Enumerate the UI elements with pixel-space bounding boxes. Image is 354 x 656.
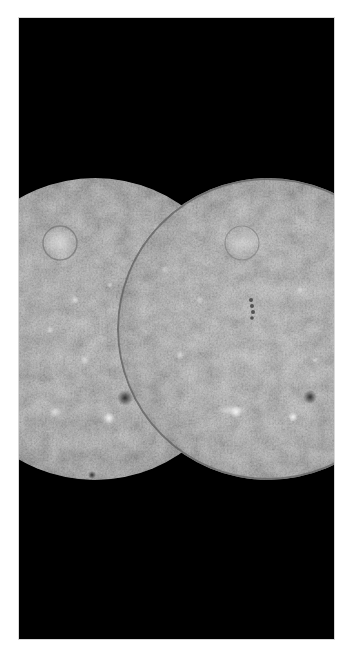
planet-scene <box>19 18 334 639</box>
right-bright-spot-1 <box>288 412 298 422</box>
right-dark-crater <box>303 390 317 404</box>
left-bright-spot <box>103 412 115 424</box>
left-dark-crater <box>117 390 133 406</box>
image-frame: Mercury <box>19 18 334 639</box>
left-bottom-dark-crater <box>88 471 96 479</box>
